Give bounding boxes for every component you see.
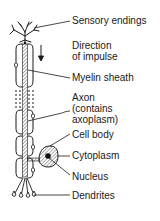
axon-shape <box>23 44 28 177</box>
label-direction-line1: Direction <box>72 41 111 51</box>
label-cytoplasm: Cytoplasm <box>72 151 119 161</box>
neuron-diagram: Sensory endings Direction of impulse Mye… <box>0 0 160 221</box>
label-axon-line1: Axon <box>72 93 95 103</box>
label-direction-line2: of impulse <box>72 52 118 62</box>
sensory-endings-shape <box>10 22 39 43</box>
label-nucleus: Nucleus <box>72 172 108 182</box>
label-axon-line2: (contains <box>72 104 113 114</box>
label-axon-line3: axoplasm) <box>72 115 118 125</box>
label-sensory-endings: Sensory endings <box>72 16 147 26</box>
label-dendrites: Dendrites <box>72 191 115 201</box>
nucleus-shape <box>45 153 51 159</box>
down-arrow-icon <box>39 45 44 61</box>
label-cell-body: Cell body <box>72 130 114 140</box>
label-myelin-sheath: Myelin sheath <box>72 73 134 83</box>
dendrites-shape <box>12 178 36 198</box>
